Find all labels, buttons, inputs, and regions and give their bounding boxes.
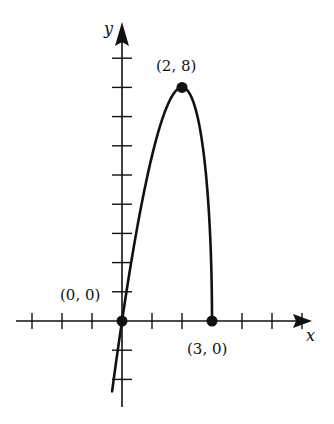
- x-axis-label: x: [306, 326, 315, 345]
- point-label-origin: (0, 0): [60, 286, 100, 304]
- point-marker: [117, 316, 128, 327]
- point-label-endpoint: (3, 0): [187, 340, 227, 358]
- graph-canvas: y x (2, 8) (0, 0) (3, 0): [0, 0, 334, 424]
- point-marker: [207, 316, 218, 327]
- point-label-max: (2, 8): [156, 57, 196, 75]
- point-marker: [177, 82, 188, 93]
- y-axis-label: y: [103, 19, 114, 38]
- axes: [16, 42, 296, 407]
